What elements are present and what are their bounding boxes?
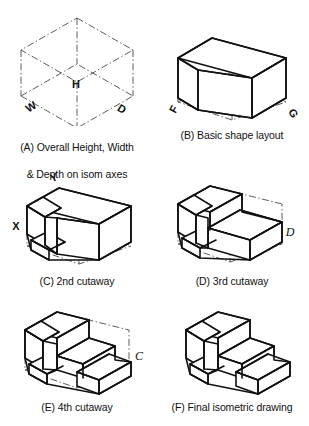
panel-b-caption: (B) Basic shape layout [155, 129, 309, 142]
label-height: H [72, 78, 80, 90]
panel-f-drawing [156, 300, 308, 400]
label-point-x: X [12, 220, 20, 232]
panel-a-drawing: H W D [1, 2, 153, 126]
panel-f: (F) Final isometric drawing [155, 300, 309, 414]
label-point-c: C [135, 349, 144, 363]
label-point-y: Y [48, 170, 59, 184]
label-corner-g: G [286, 107, 301, 120]
panel-b: F G (B) Basic shape layout [155, 2, 309, 142]
panel-d: D (D) 3rd cutaway [155, 170, 309, 288]
third-cutaway-block-d [178, 186, 282, 262]
panel-c-drawing: Y X [1, 170, 153, 274]
isometric-figure-sheet: H W D (A) Overall Height, Width & Depth … [0, 0, 309, 426]
panel-a-caption-line1: (A) Overall Height, Width [20, 141, 134, 153]
panel-e-caption: (E) 4th cutaway [0, 401, 154, 414]
panel-d-caption: (D) 3rd cutaway [155, 275, 309, 288]
panel-e-drawing: C [1, 300, 153, 400]
label-depth: D [116, 101, 129, 115]
panel-c: Y X (C) 2nd cutaway [0, 170, 154, 288]
panel-a: H W D (A) Overall Height, Width & Depth … [0, 2, 154, 181]
label-corner-f: F [167, 103, 181, 115]
panel-b-drawing: F G [156, 2, 308, 128]
panel-c-caption: (C) 2nd cutaway [0, 275, 154, 288]
basic-shape-block-b [178, 38, 286, 120]
panel-e: C (E) 4th cutaway [0, 300, 154, 414]
fourth-cutaway-block-e [25, 312, 131, 394]
label-point-d: D [285, 225, 295, 239]
second-cutaway-block-c [27, 188, 131, 264]
final-isometric-solid-f [186, 312, 290, 394]
panel-f-caption: (F) Final isometric drawing [155, 401, 309, 414]
panel-d-drawing: D [156, 170, 308, 274]
label-width: W [23, 98, 39, 114]
